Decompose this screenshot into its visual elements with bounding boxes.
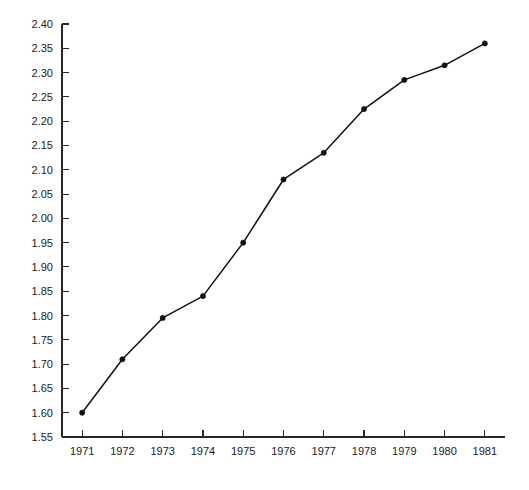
- chart-container: 1.551.601.651.701.751.801.851.901.952.00…: [0, 0, 529, 490]
- y-tick-label: 1.65: [32, 382, 53, 394]
- x-tick-label: 1981: [473, 445, 497, 457]
- x-tick-label: 1977: [312, 445, 336, 457]
- x-tick-label: 1979: [392, 445, 416, 457]
- x-tick-label: 1973: [150, 445, 174, 457]
- x-axis-tick-labels: 1971197219731974197519761977197819791980…: [70, 445, 497, 457]
- y-tick-label: 2.40: [32, 18, 53, 30]
- y-tick-label: 1.60: [32, 407, 53, 419]
- y-tick-label: 2.10: [32, 164, 53, 176]
- y-tick-label: 2.35: [32, 42, 53, 54]
- line-chart: 1.551.601.651.701.751.801.851.901.952.00…: [0, 0, 529, 490]
- y-tick-label: 1.80: [32, 310, 53, 322]
- x-tick-label: 1971: [70, 445, 94, 457]
- data-point-marker: [281, 177, 286, 182]
- chart-background: [0, 0, 529, 490]
- x-tick-label: 1972: [110, 445, 134, 457]
- data-point-marker: [361, 106, 366, 111]
- data-point-marker: [442, 63, 447, 68]
- x-tick-label: 1974: [191, 445, 215, 457]
- y-tick-label: 1.95: [32, 237, 53, 249]
- y-tick-label: 1.55: [32, 431, 53, 443]
- data-point-marker: [200, 293, 205, 298]
- y-tick-label: 2.25: [32, 91, 53, 103]
- x-tick-label: 1975: [231, 445, 255, 457]
- data-point-marker: [160, 315, 165, 320]
- x-tick-label: 1978: [352, 445, 376, 457]
- data-point-marker: [482, 41, 487, 46]
- y-tick-label: 2.20: [32, 115, 53, 127]
- y-tick-label: 2.05: [32, 188, 53, 200]
- y-tick-label: 1.70: [32, 358, 53, 370]
- y-tick-label: 2.30: [32, 67, 53, 79]
- y-tick-label: 1.75: [32, 334, 53, 346]
- data-point-marker: [402, 77, 407, 82]
- y-tick-label: 1.85: [32, 285, 53, 297]
- data-point-marker: [241, 240, 246, 245]
- y-tick-label: 2.15: [32, 139, 53, 151]
- y-tick-label: 2.00: [32, 212, 53, 224]
- y-tick-label: 1.90: [32, 261, 53, 273]
- data-point-marker: [80, 410, 85, 415]
- data-point-marker: [120, 357, 125, 362]
- x-tick-label: 1980: [432, 445, 456, 457]
- x-tick-label: 1976: [271, 445, 295, 457]
- data-point-marker: [321, 150, 326, 155]
